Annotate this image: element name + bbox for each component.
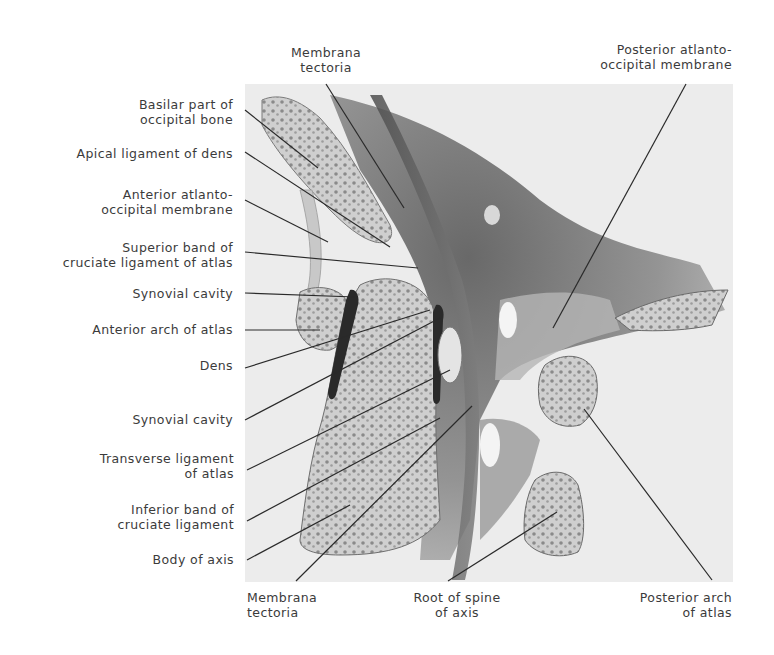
fat-pad-2 bbox=[480, 423, 500, 467]
label-membrana-tectoria-top: Membrana tectoria bbox=[280, 45, 372, 75]
fat-pad-3 bbox=[484, 205, 500, 225]
label-synovial-cavity-2: Synovial cavity bbox=[132, 412, 233, 427]
label-body-of-axis: Body of axis bbox=[153, 552, 234, 567]
label-anterior-atlanto-occipital: Anterior atlanto- occipital membrane bbox=[101, 187, 233, 217]
label-basilar-part: Basilar part of occipital bone bbox=[139, 97, 233, 127]
fat-pad-1 bbox=[499, 302, 517, 338]
label-dens: Dens bbox=[200, 358, 233, 373]
label-posterior-atlanto-occipital: Posterior atlanto- occipital membrane bbox=[600, 42, 732, 72]
label-apical-ligament: Apical ligament of dens bbox=[77, 146, 233, 161]
label-root-of-spine: Root of spine of axis bbox=[398, 590, 516, 620]
anatomical-figure: Basilar part of occipital bone Apical li… bbox=[0, 0, 774, 655]
label-posterior-arch: Posterior arch of atlas bbox=[640, 590, 732, 620]
label-transverse-ligament: Transverse ligament of atlas bbox=[100, 451, 234, 481]
label-anterior-arch: Anterior arch of atlas bbox=[92, 322, 233, 337]
label-synovial-cavity-1: Synovial cavity bbox=[132, 286, 233, 301]
label-superior-band: Superior band of cruciate ligament of at… bbox=[63, 240, 233, 270]
label-inferior-band: Inferior band of cruciate ligament bbox=[117, 502, 234, 532]
label-membrana-tectoria-bottom: Membrana tectoria bbox=[247, 590, 317, 620]
